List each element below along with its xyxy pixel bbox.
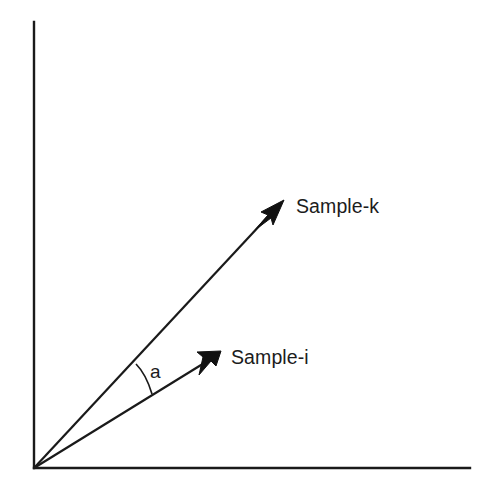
vector-diagram-canvas: Sample-k Sample-i a — [0, 0, 490, 492]
angle-label: a — [150, 361, 161, 382]
vector-angle-figure: Sample-k Sample-i a — [0, 0, 490, 492]
sample-i-arrow-head — [197, 351, 221, 375]
sample-k-vector-line — [34, 208, 276, 468]
sample-k-arrow-head — [255, 200, 284, 230]
sample-k-label: Sample-k — [296, 195, 379, 217]
sample-i-label: Sample-i — [231, 346, 309, 368]
sample-i-vector-line — [34, 357, 214, 468]
